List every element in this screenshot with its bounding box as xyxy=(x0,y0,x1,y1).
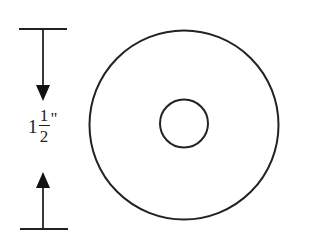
dimension-label: 1 1 2 " xyxy=(28,104,57,148)
dimension-fraction: 1 2 xyxy=(39,107,50,145)
down-arrow-icon xyxy=(36,29,50,101)
up-arrow-icon xyxy=(36,172,50,229)
outer-circle xyxy=(90,31,279,220)
inner-circle xyxy=(160,100,208,148)
dimension-whole: 1 xyxy=(28,117,38,136)
inch-mark: " xyxy=(51,110,58,127)
fraction-denominator: 2 xyxy=(40,126,49,145)
fraction-numerator: 1 xyxy=(39,107,50,125)
